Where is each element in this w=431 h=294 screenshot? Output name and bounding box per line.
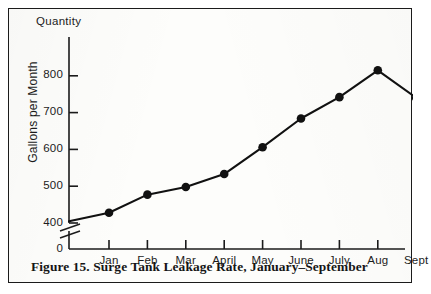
y-tick-label: 600 xyxy=(19,142,63,154)
data-line xyxy=(69,70,413,221)
data-point xyxy=(105,208,114,217)
data-point xyxy=(143,190,152,199)
chart-plot-area: Quantity Gallons per Month 8007006 xyxy=(9,9,413,284)
line-chart-svg xyxy=(9,9,413,284)
y-tick-label: 800 xyxy=(19,68,63,80)
x-tick-label: Aug xyxy=(367,254,388,266)
x-tick-marks xyxy=(109,240,413,249)
data-point xyxy=(220,170,229,179)
y-zero-tick-label: 0 xyxy=(19,242,63,254)
y-tick-label: 500 xyxy=(19,179,63,191)
data-point xyxy=(335,93,344,102)
figure-caption: Figure 15. Surge Tank Leakage Rate, Janu… xyxy=(31,259,368,275)
axis-break-icon xyxy=(60,224,80,238)
y-tick-label: 400 xyxy=(19,216,63,228)
data-point xyxy=(258,143,267,152)
y-tick-marks xyxy=(69,76,78,223)
axes-group xyxy=(60,37,405,249)
figure-frame: Quantity Gallons per Month 8007006 xyxy=(8,8,412,283)
data-point-markers xyxy=(105,66,413,217)
x-tick-label: Sept xyxy=(404,254,428,266)
y-tick-label: 700 xyxy=(19,105,63,117)
data-point xyxy=(374,66,383,75)
data-point xyxy=(182,183,191,192)
data-point xyxy=(297,114,306,123)
